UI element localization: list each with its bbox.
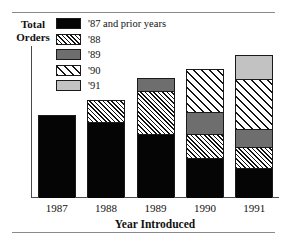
legend-swatch-y88 — [56, 34, 81, 45]
bar-segment-1988-y88[interactable] — [88, 101, 124, 122]
bar-segment-1991-y88[interactable] — [236, 148, 272, 169]
stacked-bar-1991[interactable] — [235, 55, 273, 197]
stacked-bar-1988[interactable] — [87, 100, 125, 197]
stacked-bar-1987[interactable] — [38, 115, 76, 197]
bar-segment-1990-y89[interactable] — [187, 113, 223, 134]
bar-segment-1991-y91[interactable] — [236, 56, 272, 80]
stacked-bar-1989[interactable] — [137, 78, 175, 197]
bar-segment-1991-y87[interactable] — [236, 169, 272, 198]
plot-area — [32, 46, 279, 197]
bar-segment-1990-y88[interactable] — [187, 135, 223, 159]
y-axis-title-line-2: Orders — [10, 31, 56, 44]
legend-label-y87: '87 and prior years — [88, 18, 166, 29]
bar-segment-1989-y89[interactable] — [138, 79, 174, 93]
bar-segment-1991-y90[interactable] — [236, 80, 272, 130]
bar-segment-1990-y87[interactable] — [187, 159, 223, 198]
bar-segment-1989-y87[interactable] — [138, 135, 174, 198]
legend-label-y88: '88 — [88, 34, 100, 45]
legend-item-y88: '88 — [56, 32, 166, 48]
clipped-caption-above-figure — [14, 0, 271, 9]
stacked-bar-1990[interactable] — [186, 69, 224, 197]
x-axis-title: Year Introduced — [31, 218, 279, 230]
x-axis-label-1991: 1991 — [224, 202, 284, 214]
bar-segment-1989-y88[interactable] — [138, 92, 174, 134]
bar-segment-1990-y90[interactable] — [187, 70, 223, 114]
legend-item-y87: '87 and prior years — [56, 16, 166, 32]
bar-segment-1987-y87[interactable] — [39, 116, 75, 198]
y-axis-title-line-1: Total — [10, 18, 56, 31]
stacked-bar-chart: Total Orders '87 and prior years'88'89'9… — [0, 12, 285, 220]
bar-segment-1988-y87[interactable] — [88, 123, 124, 199]
legend-swatch-y87 — [56, 18, 81, 29]
y-axis-title: Total Orders — [10, 18, 56, 43]
bottom-divider-rule — [12, 232, 275, 233]
bar-segment-1991-y89[interactable] — [236, 130, 272, 148]
